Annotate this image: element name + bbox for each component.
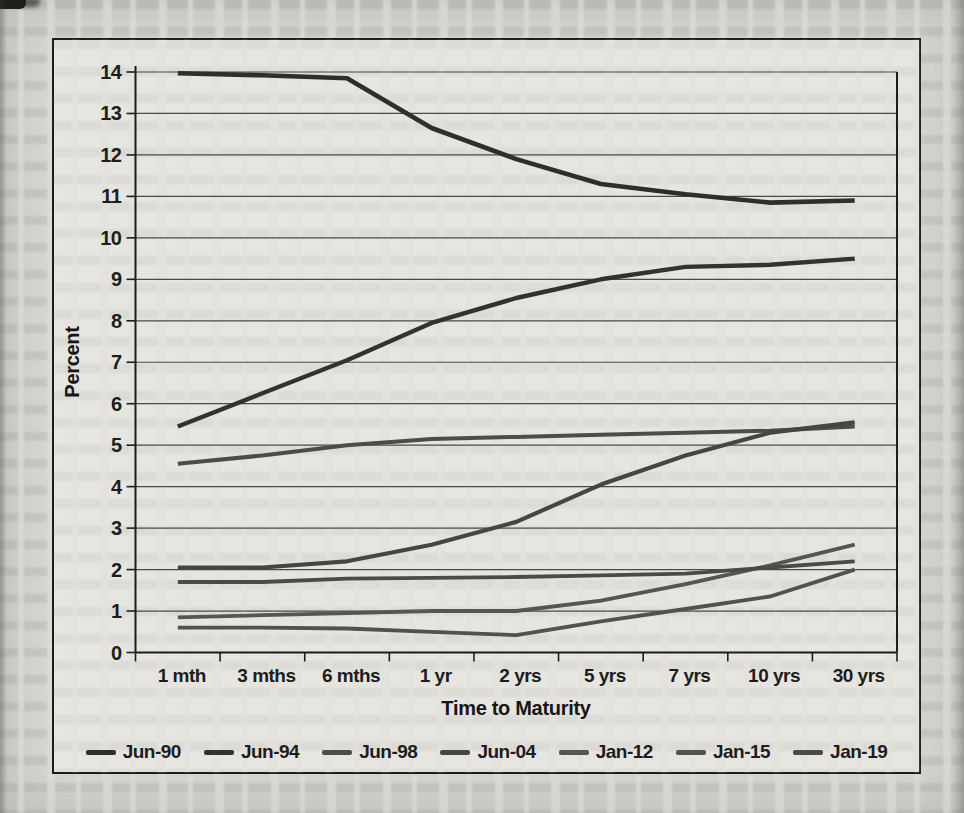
x-axis-title: Time to Maturity bbox=[441, 697, 590, 720]
scanned-page: 012345678910111213141 mth3 mths6 mths1 y… bbox=[0, 0, 964, 813]
chart-frame bbox=[52, 38, 921, 774]
legend-label: Jun-94 bbox=[241, 741, 299, 763]
legend-item-jun-94: Jun-94 bbox=[204, 741, 299, 763]
chart-legend: Jun-90Jun-94Jun-98Jun-04Jan-12Jan-15Jan-… bbox=[52, 741, 921, 763]
legend-swatch-jun-90 bbox=[86, 750, 116, 755]
legend-swatch-jun-04 bbox=[440, 750, 470, 755]
legend-swatch-jan-19 bbox=[793, 750, 823, 755]
legend-label: Jun-90 bbox=[123, 741, 181, 763]
chart-bleed-noise bbox=[54, 40, 919, 772]
legend-swatch-jun-98 bbox=[322, 750, 352, 755]
legend-swatch-jan-12 bbox=[559, 750, 589, 755]
legend-label: Jun-98 bbox=[359, 741, 417, 763]
legend-item-jan-12: Jan-12 bbox=[559, 741, 653, 763]
legend-swatch-jun-94 bbox=[204, 750, 234, 755]
legend-label: Jan-15 bbox=[713, 741, 770, 763]
scan-edge-shading-right bbox=[954, 0, 964, 813]
legend-item-jan-19: Jan-19 bbox=[793, 741, 887, 763]
legend-item-jun-98: Jun-98 bbox=[322, 741, 417, 763]
legend-item-jan-15: Jan-15 bbox=[676, 741, 770, 763]
y-axis-title: Percent bbox=[61, 326, 84, 397]
legend-swatch-jan-15 bbox=[676, 750, 706, 755]
legend-item-jun-90: Jun-90 bbox=[86, 741, 181, 763]
scan-edge-shading-left bbox=[0, 0, 7, 813]
legend-label: Jan-19 bbox=[830, 741, 887, 763]
legend-item-jun-04: Jun-04 bbox=[440, 741, 535, 763]
legend-label: Jan-12 bbox=[596, 741, 653, 763]
legend-label: Jun-04 bbox=[477, 741, 535, 763]
